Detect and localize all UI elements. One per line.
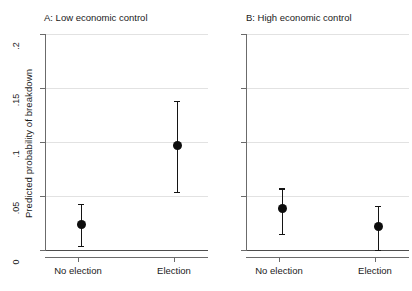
errorbar-cap-lower (78, 246, 84, 247)
x-tick-election (174, 257, 175, 262)
x-tick-label-no-election: No election (255, 265, 303, 276)
panel-b: B: High economic control (218, 0, 412, 291)
gridline-0.05 (45, 196, 208, 197)
errorbar-cap-lower (279, 234, 285, 235)
gridline-0.2 (246, 34, 409, 35)
data-point-marker (173, 141, 182, 150)
y-tick-label-0.1: .1 (11, 143, 21, 165)
panel-a-y-axis (45, 34, 46, 251)
panel-b-x-axis (246, 257, 409, 258)
gridline-0.1 (246, 142, 409, 143)
gridline-0.15 (246, 88, 409, 89)
x-tick-no-election (279, 257, 280, 262)
y-tick-0.15 (40, 88, 45, 89)
panel-a: A: Low economic control (0, 0, 218, 291)
y-tick-0.15 (241, 88, 246, 89)
y-tick-label-0.15: .15 (11, 89, 21, 111)
errorbar-cap-lower (375, 250, 381, 251)
data-point-marker (77, 220, 86, 229)
y-tick-label-0.05: .05 (11, 197, 21, 219)
x-tick-label-no-election: No election (54, 265, 102, 276)
zero-line (246, 250, 409, 251)
y-tick-label-0: 0 (11, 251, 21, 273)
gridline-0.1 (45, 142, 208, 143)
data-point-marker (278, 204, 287, 213)
y-tick-0.1 (40, 142, 45, 143)
gridline-0.2 (45, 34, 208, 35)
x-tick-label-election: Election (358, 265, 392, 276)
y-tick-0.05 (241, 196, 246, 197)
x-tick-label-election: Election (157, 265, 191, 276)
panel-a-x-axis (45, 257, 208, 258)
panel-b-title: B: High economic control (246, 12, 352, 23)
errorbar-cap-lower (174, 192, 180, 193)
gridline-0.05 (246, 196, 409, 197)
x-tick-no-election (78, 257, 79, 262)
y-tick-0 (40, 250, 45, 251)
y-tick-0.05 (40, 196, 45, 197)
panel-a-title: A: Low economic control (44, 12, 148, 23)
y-tick-0.2 (40, 34, 45, 35)
data-point-marker (374, 222, 383, 231)
x-tick-election (375, 257, 376, 262)
y-tick-0.1 (241, 142, 246, 143)
y-tick-label-0.2: .2 (11, 35, 21, 57)
panel-a-plot-area (45, 34, 208, 250)
gridline-0.15 (45, 88, 208, 89)
y-tick-0 (241, 250, 246, 251)
zero-line (45, 250, 208, 251)
figure-container: Predicted probability of breakdown A: Lo… (0, 0, 412, 291)
y-tick-0.2 (241, 34, 246, 35)
panel-b-plot-area (246, 34, 409, 250)
panel-b-y-axis (246, 34, 247, 251)
